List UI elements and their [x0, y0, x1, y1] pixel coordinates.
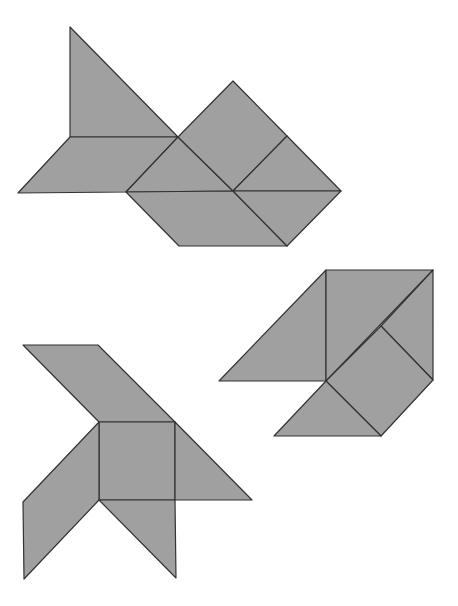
figure-right — [219, 270, 433, 436]
tangram-piece-parallelogram-top — [23, 345, 175, 422]
figure-top — [18, 27, 341, 246]
tangram-piece-large-triangle — [70, 27, 178, 137]
tangram-piece-triangle-bottom — [99, 500, 176, 578]
figure-bottom-left — [23, 345, 252, 579]
tangram-piece-parallelogram-left — [23, 422, 99, 579]
tangram-canvas — [0, 0, 458, 606]
tangram-piece-triangle-left — [219, 270, 326, 381]
tangram-piece-triangle-right — [175, 422, 252, 500]
tangram-piece-square — [99, 422, 175, 500]
